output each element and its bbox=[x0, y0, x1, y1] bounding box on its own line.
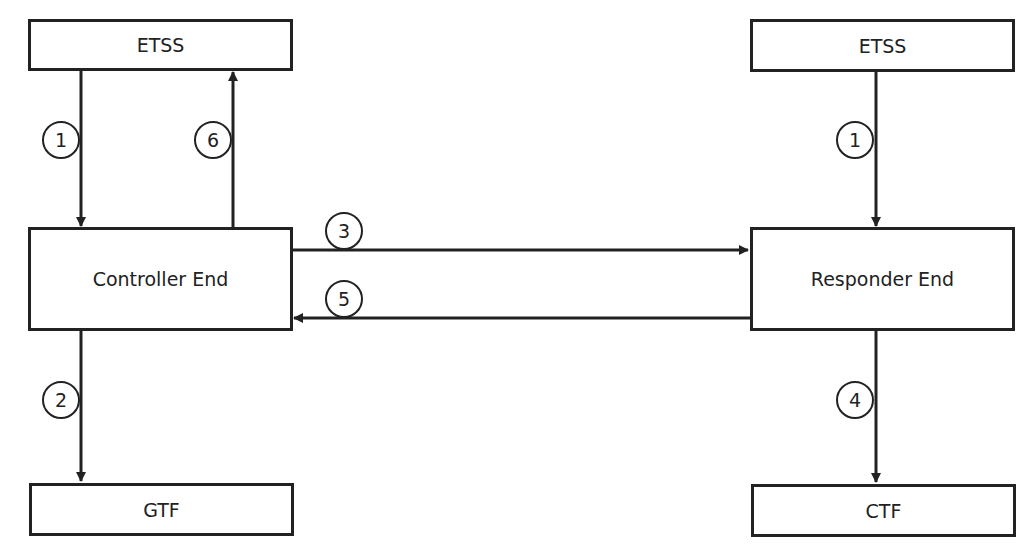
etss-left-box: ETSS bbox=[28, 19, 293, 71]
responder-end-label: Responder End bbox=[811, 268, 954, 290]
step-badge-5: 5 bbox=[325, 280, 363, 318]
ctf-label: CTF bbox=[866, 500, 902, 522]
step-badge-4: 4 bbox=[836, 381, 874, 419]
ctf-box: CTF bbox=[751, 484, 1016, 537]
gtf-box: GTF bbox=[29, 483, 294, 536]
step-badge-2: 2 bbox=[42, 381, 80, 419]
controller-end-label: Controller End bbox=[93, 268, 229, 290]
step-badge-1-right: 1 bbox=[836, 121, 874, 159]
etss-right-box: ETSS bbox=[750, 19, 1015, 72]
controller-end-box: Controller End bbox=[28, 227, 293, 331]
step-badge-3: 3 bbox=[325, 212, 363, 250]
etss-left-label: ETSS bbox=[137, 34, 185, 56]
step-badge-6: 6 bbox=[194, 121, 232, 159]
gtf-label: GTF bbox=[143, 499, 180, 521]
responder-end-box: Responder End bbox=[750, 227, 1015, 331]
etss-right-label: ETSS bbox=[859, 35, 907, 57]
step-badge-1-left: 1 bbox=[42, 121, 80, 159]
